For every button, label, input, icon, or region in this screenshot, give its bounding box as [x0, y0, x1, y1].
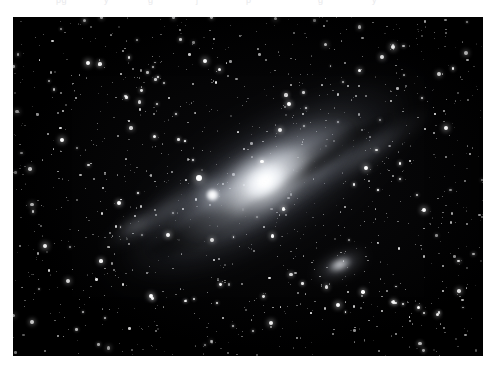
star — [98, 62, 102, 66]
star — [13, 314, 15, 317]
star — [444, 126, 448, 130]
star — [156, 103, 158, 105]
star — [436, 313, 439, 316]
star — [138, 100, 142, 104]
star — [210, 238, 214, 242]
star — [364, 166, 368, 170]
star — [28, 167, 31, 170]
star — [140, 89, 143, 92]
star — [32, 210, 35, 213]
star — [437, 72, 441, 76]
star — [218, 68, 221, 71]
star — [83, 19, 86, 22]
star — [289, 273, 292, 276]
star — [60, 138, 64, 142]
star — [107, 346, 111, 350]
star — [422, 208, 426, 212]
star — [260, 160, 263, 163]
star — [203, 59, 207, 63]
star — [457, 289, 461, 293]
star — [358, 69, 361, 72]
star — [284, 93, 287, 96]
star — [128, 56, 131, 59]
astrophotograph — [13, 17, 483, 356]
star — [117, 201, 121, 205]
star — [375, 149, 378, 152]
star — [177, 138, 180, 141]
star — [287, 102, 291, 106]
star — [153, 135, 156, 138]
star — [361, 290, 364, 293]
top-text-fragment: g — [148, 0, 153, 5]
star — [166, 233, 170, 237]
star — [172, 17, 175, 19]
top-text-fragment: y — [104, 0, 109, 5]
top-text-fragment: j — [196, 0, 198, 5]
star — [262, 295, 265, 298]
star — [196, 175, 202, 181]
star — [269, 321, 273, 325]
star — [399, 162, 402, 165]
star — [274, 17, 278, 20]
star — [417, 306, 420, 309]
star — [278, 128, 282, 132]
star — [418, 342, 421, 345]
star — [452, 67, 455, 70]
star — [336, 303, 341, 308]
star — [100, 17, 103, 19]
star — [86, 61, 91, 66]
star — [324, 43, 328, 47]
star — [325, 285, 329, 289]
bright-star-layer — [13, 17, 483, 356]
star — [391, 45, 396, 50]
top-text-fragment: g — [318, 0, 323, 5]
star — [472, 253, 475, 256]
top-text-fragment: y — [372, 0, 377, 5]
star — [66, 279, 70, 283]
top-text-fragment: pg — [56, 0, 67, 5]
star — [97, 343, 99, 345]
star — [422, 349, 425, 352]
star — [380, 55, 384, 59]
star — [282, 207, 286, 211]
star — [353, 183, 355, 185]
star — [210, 17, 213, 19]
star — [129, 126, 132, 129]
star — [358, 25, 361, 28]
top-text-artifact: pgygjpgy — [0, 0, 496, 9]
star — [17, 53, 20, 56]
top-text-fragment: p — [246, 0, 251, 5]
star — [271, 234, 274, 237]
star — [30, 203, 34, 207]
star — [402, 303, 404, 305]
star — [399, 178, 401, 180]
star — [457, 260, 460, 263]
star — [219, 283, 222, 286]
star — [15, 110, 19, 114]
star — [43, 244, 48, 249]
star — [464, 51, 468, 55]
star — [99, 259, 103, 263]
star — [30, 320, 34, 324]
